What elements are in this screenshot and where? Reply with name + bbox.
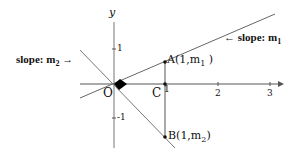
point-a-label: A(1,m1 ) (167, 53, 213, 68)
point-c-label: C (152, 86, 161, 100)
slope-m2-annotation: slope: m2 → (16, 53, 73, 68)
arrow-left-icon: ← (224, 31, 235, 43)
point-b-label: B(1,m2) (168, 129, 211, 144)
slope-m1-annotation: ← slope: m1 (224, 31, 281, 46)
angle-marker-icon (114, 79, 127, 90)
diagram-canvas (0, 0, 303, 157)
x-tick-label-3: 3 (267, 88, 273, 98)
y-tick-label-neg1: -1 (117, 112, 126, 122)
x-tick-label-1: 1 (164, 84, 170, 94)
origin-label: O (103, 86, 113, 100)
x-tick-label-2: 2 (215, 88, 221, 98)
y-tick-label-1: 1 (117, 43, 123, 53)
y-axis-label: y (109, 6, 115, 19)
arrow-right-icon: → (62, 53, 73, 65)
x-axis-arrow-icon (278, 81, 284, 87)
point-b (163, 135, 167, 139)
